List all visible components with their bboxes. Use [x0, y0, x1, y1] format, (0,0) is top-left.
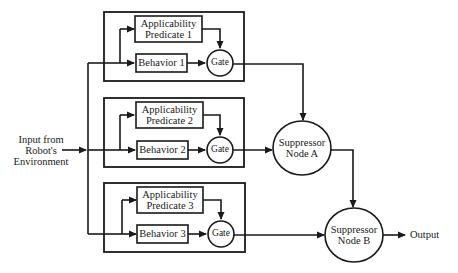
input-label-line-3: Environment	[6, 156, 76, 167]
suppressor-node-b-label: Suppressor Node B	[325, 224, 383, 246]
input-label: Input from Robot's Environment	[6, 134, 76, 167]
behavior-1-label: Behavior 1	[136, 57, 187, 68]
applicability-predicate-3-label: Applicability Predicate 3	[137, 189, 203, 211]
applicability-predicate-1-line-2: Predicate 1	[135, 29, 202, 40]
applicability-predicate-1-line-1: Applicability	[135, 18, 202, 29]
suppressor-a-to-suppressor-b	[330, 150, 353, 207]
applicability-predicate-2-label: Applicability Predicate 2	[136, 104, 203, 126]
applicability-predicate-2-line-2: Predicate 2	[136, 115, 203, 126]
suppressor-a-line-1: Suppressor	[273, 137, 331, 148]
input-label-line-1: Input from	[6, 134, 76, 145]
input-label-line-2: Robot's	[6, 145, 76, 156]
applicability-predicate-3-line-1: Applicability	[137, 189, 203, 200]
behavior-3-label: Behavior 3	[137, 228, 188, 239]
gate-2-label: Gate	[207, 144, 233, 155]
gate-1-label: Gate	[207, 57, 233, 68]
gate-3-label: Gate	[208, 228, 234, 239]
suppressor-node-a-label: Suppressor Node A	[273, 137, 331, 159]
output-label: Output	[410, 229, 439, 240]
applicability-predicate-2-line-1: Applicability	[136, 104, 203, 115]
suppressor-b-line-2: Node B	[325, 235, 383, 246]
applicability-predicate-3-line-2: Predicate 3	[137, 200, 203, 211]
behavior-2-label: Behavior 2	[137, 144, 188, 155]
suppressor-b-line-1: Suppressor	[325, 224, 383, 235]
applicability-predicate-1-label: Applicability Predicate 1	[135, 18, 202, 40]
suppressor-a-line-2: Node A	[273, 148, 331, 159]
